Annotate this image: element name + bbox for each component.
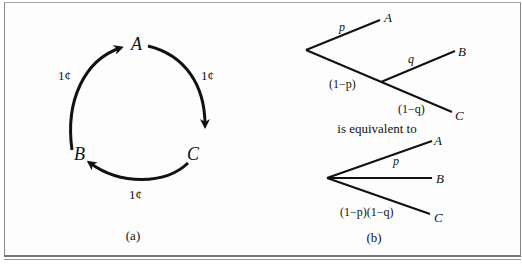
- edge-c-b-label: 1¢: [129, 187, 142, 202]
- label2-product: (1−p)(1−q): [340, 205, 394, 219]
- top-leaf-b: B: [458, 44, 466, 59]
- bottom-leaf-b: B: [436, 171, 444, 186]
- node-c-label: C: [187, 144, 200, 164]
- label2-p: p: [392, 154, 399, 168]
- bottom-leaf-a: A: [433, 133, 442, 148]
- top-leaf-c: C: [455, 108, 464, 123]
- label-q: q: [408, 52, 414, 66]
- bottom-leaf-c: C: [434, 210, 443, 225]
- equivalence-text: is equivalent to: [337, 121, 416, 136]
- panel-b: A B C p q (1−p) (1−q) is equivalent to A…: [306, 10, 466, 245]
- diagram-canvas: A B C 1¢ 1¢ 1¢ (a) A B C p q (1−p) (1−q)…: [0, 0, 522, 270]
- label-1-minus-q: (1−q): [398, 102, 425, 116]
- arrow-b-to-a: [71, 48, 120, 150]
- node-b-label: B: [74, 144, 85, 164]
- panel-a: A B C 1¢ 1¢ 1¢ (a): [58, 34, 214, 243]
- caption-b: (b): [366, 230, 381, 245]
- branch-1-minus-p: [306, 50, 452, 112]
- label-1-minus-p: (1−p): [329, 77, 356, 91]
- edge-b-a-label: 1¢: [58, 68, 71, 83]
- node-a-label: A: [130, 34, 143, 54]
- top-leaf-a: A: [383, 10, 392, 25]
- arrow-c-to-b: [90, 163, 188, 180]
- label-p: p: [338, 20, 345, 34]
- branch2-a: [327, 141, 432, 178]
- branch-q: [381, 51, 455, 82]
- arrow-a-to-c: [148, 46, 205, 125]
- caption-a: (a): [126, 228, 140, 243]
- edge-a-c-label: 1¢: [201, 68, 214, 83]
